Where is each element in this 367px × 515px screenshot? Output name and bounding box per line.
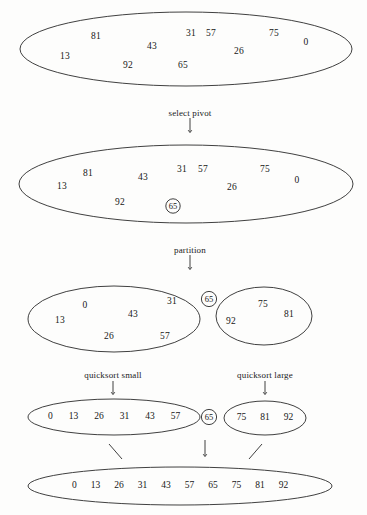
step-label-partition: partition <box>174 246 206 255</box>
ellipse-unsorted-list <box>20 12 352 86</box>
step-label-quicksort-large: quicksort large <box>237 371 293 380</box>
small-partition-item: 31 <box>167 297 177 307</box>
sequence-item: 26 <box>114 481 124 491</box>
large-sorted-sequence: 758192 <box>237 413 294 423</box>
connector-large-to-final <box>249 444 262 459</box>
sequence-item: 75 <box>232 481 242 491</box>
small-partition-item: 26 <box>104 332 114 342</box>
pivot-stage-item: 92 <box>115 198 125 208</box>
unsorted-item: 81 <box>91 32 101 42</box>
small-partition-item: 13 <box>55 316 65 326</box>
connector-small-to-final <box>109 444 122 459</box>
pivot-value-stage2: 65 <box>169 202 178 211</box>
unsorted-item: 92 <box>123 61 133 71</box>
small-partition-item: 43 <box>128 310 138 320</box>
sequence-item: 57 <box>185 481 195 491</box>
pivot-stage-item: 57 <box>198 165 208 175</box>
sequence-item: 81 <box>255 481 265 491</box>
unsorted-item: 26 <box>234 47 244 57</box>
unsorted-item: 75 <box>269 29 279 39</box>
large-partition-item: 81 <box>284 310 294 320</box>
step-label-quicksort-small: quicksort small <box>84 371 142 380</box>
ellipse-pivot-selected <box>19 145 353 223</box>
pivot-stage-item: 26 <box>227 183 237 193</box>
step-label-select-pivot: select pivot <box>168 109 211 118</box>
sequence-item: 75 <box>237 413 247 423</box>
sequence-item: 92 <box>284 413 294 423</box>
sequence-item: 13 <box>69 412 79 422</box>
unsorted-item: 0 <box>304 38 309 48</box>
sequence-item: 31 <box>120 412 130 422</box>
pivot-value-stage3: 65 <box>205 295 214 304</box>
unsorted-item: 57 <box>206 29 216 39</box>
small-partition-item: 0 <box>83 301 88 311</box>
pivot-stage-item: 0 <box>295 176 300 186</box>
sequence-item: 57 <box>171 412 181 422</box>
sequence-item: 31 <box>138 481 148 491</box>
sequence-item: 26 <box>94 412 104 422</box>
unsorted-item: 31 <box>186 29 196 39</box>
unsorted-item: 65 <box>178 61 188 71</box>
pivot-stage-item: 13 <box>57 182 67 192</box>
sequence-item: 43 <box>161 481 171 491</box>
pivot-stage-item: 31 <box>177 165 187 175</box>
pivot-stage-item: 75 <box>260 165 270 175</box>
large-partition-item: 75 <box>258 300 268 310</box>
sequence-item: 65 <box>208 481 218 491</box>
large-partition-item: 92 <box>226 317 236 327</box>
sequence-item: 13 <box>91 481 101 491</box>
quicksort-diagram: 13 81 92 43 65 31 57 26 75 0 select pivo… <box>0 0 367 515</box>
sequence-item: 43 <box>145 412 155 422</box>
small-sorted-sequence: 01326314357 <box>48 412 180 422</box>
sequence-item: 0 <box>48 412 53 422</box>
sequence-item: 81 <box>260 413 270 423</box>
small-partition-item: 57 <box>160 332 170 342</box>
diagram-vector-layer <box>0 0 367 515</box>
unsorted-item: 13 <box>60 52 70 62</box>
pivot-value-stage4: 65 <box>205 413 214 422</box>
pivot-stage-item: 81 <box>83 169 93 179</box>
sequence-item: 92 <box>279 481 289 491</box>
pivot-stage-item: 43 <box>138 173 148 183</box>
unsorted-item: 43 <box>147 42 157 52</box>
sequence-item: 0 <box>72 481 77 491</box>
final-sorted-sequence: 0132631435765758192 <box>72 481 288 491</box>
